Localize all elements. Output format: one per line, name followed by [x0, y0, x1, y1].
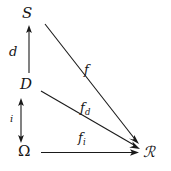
edge-label-fi-subscript: i — [83, 137, 86, 147]
edge-label-f: f — [84, 63, 89, 76]
edge-fd-arrow — [41, 91, 140, 149]
edge-label-i: i — [10, 114, 13, 124]
node-label-d: D — [20, 77, 32, 92]
edge-f-arrow — [45, 24, 139, 144]
edge-d-arrow — [26, 25, 32, 73]
edge-label-fd: fd — [80, 101, 90, 114]
edge-label-fd-subscript: d — [85, 107, 90, 117]
node-label-s: S — [22, 6, 32, 21]
commutative-diagram: S D Ω ℛ d i f fd fi — [0, 0, 171, 171]
node-label-omega: Ω — [18, 144, 30, 159]
edge-i-arrow — [18, 98, 24, 143]
edge-fi-arrow — [41, 149, 139, 156]
edge-label-d: d — [9, 45, 17, 58]
node-label-script-r: ℛ — [143, 145, 155, 160]
edge-label-fi: fi — [78, 131, 86, 144]
